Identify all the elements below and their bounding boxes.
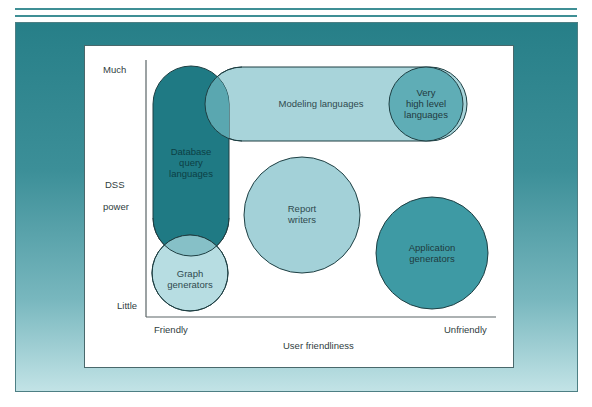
dss-diagram: Much DSS power Little Friendly Unfriendl…	[0, 0, 592, 407]
label-vhll-line-1: Very	[416, 87, 435, 98]
label-vhll-line-3: languages	[404, 109, 448, 120]
label-application-line-2: generators	[409, 253, 455, 264]
y-axis-title-line-2: power	[103, 201, 129, 212]
x-axis-left-label: Friendly	[154, 324, 188, 335]
x-axis-right-label: Unfriendly	[444, 324, 487, 335]
label-database-line-2: query	[179, 157, 203, 168]
label-database-line-3: languages	[169, 168, 213, 179]
label-modeling-languages: Modeling languages	[278, 98, 363, 109]
label-database-line-1: Database	[171, 146, 212, 157]
label-report-line-2: writers	[287, 214, 316, 225]
label-graph-line-1: Graph	[177, 268, 203, 279]
y-axis-bottom-label: Little	[117, 300, 137, 311]
label-application-line-1: Application	[409, 242, 455, 253]
label-vhll-line-2: high level	[406, 98, 446, 109]
label-report-line-1: Report	[288, 203, 317, 214]
x-axis-title: User friendliness	[283, 340, 354, 351]
y-axis-title-line-1: DSS	[105, 179, 125, 190]
label-graph-line-2: generators	[167, 279, 213, 290]
y-axis-top-label: Much	[103, 64, 126, 75]
